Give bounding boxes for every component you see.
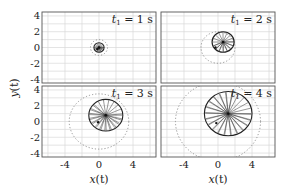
center-dot [222, 41, 224, 43]
marker-dot [96, 48, 98, 50]
marker-dot [214, 46, 216, 48]
y-axis-label: y(t) [8, 78, 21, 98]
figure: t1 = 1 s420-2-4t1 = 2 st1 = 3 s420-2-4-4… [0, 0, 286, 191]
x-tick-label: 4 [130, 159, 136, 170]
y-tick-label: -4 [30, 148, 40, 159]
marker-dot [215, 122, 217, 124]
x-tick-label: 4 [249, 159, 255, 170]
y-tick-label: -2 [30, 58, 40, 69]
x-tick-label: 0 [96, 159, 102, 170]
panel-label: t1 = 4 s [231, 87, 273, 101]
y-tick-label: 4 [34, 84, 40, 95]
panel-label: t1 = 2 s [231, 13, 273, 27]
panel-4: t1 = 4 s-404 [161, 82, 275, 170]
panel-2: t1 = 2 s [161, 12, 275, 83]
marker-dot [97, 121, 99, 123]
panel-label: t1 = 1 s [112, 13, 154, 27]
panels-group: t1 = 1 s420-2-4t1 = 2 st1 = 3 s420-2-4-4… [30, 10, 275, 170]
y-tick-label: -2 [30, 132, 40, 143]
center-dot [227, 112, 229, 114]
y-tick-label: 2 [34, 100, 40, 111]
panel-1: t1 = 1 s420-2-4 [30, 10, 156, 84]
y-tick-label: 0 [34, 116, 40, 127]
x-axis-label-left: x(t) [89, 173, 108, 186]
x-axis-label-right: x(t) [208, 173, 227, 186]
panel-label: t1 = 3 s [112, 87, 154, 101]
x-tick-label: -4 [60, 159, 70, 170]
y-tick-label: 4 [34, 10, 40, 21]
x-tick-label: 0 [215, 159, 221, 170]
y-tick-label: 0 [34, 42, 40, 53]
panel-3: t1 = 3 s420-2-4-404 [30, 84, 156, 170]
center-dot [105, 114, 107, 116]
y-tick-label: 2 [34, 26, 40, 37]
y-tick-label: -4 [30, 74, 40, 85]
x-tick-label: -4 [179, 159, 189, 170]
